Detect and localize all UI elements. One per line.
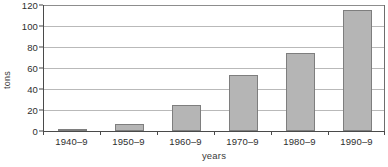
x-tick-mark-0 [43, 131, 44, 135]
y-tick-label-0: 0 [14, 126, 38, 137]
x-tick-label-1990–9: 1990–9 [328, 136, 385, 147]
y-tick-label-100: 100 [14, 21, 38, 32]
bar-1960–9 [172, 105, 202, 131]
x-tick-label-1950–9: 1950–9 [100, 136, 157, 147]
y-axis-title: tons [0, 60, 14, 100]
x-tick-mark-4 [271, 131, 272, 135]
bars-layer [44, 5, 384, 131]
x-tick-label-1960–9: 1960–9 [157, 136, 214, 147]
bar-1980–9 [286, 53, 316, 131]
x-tick-mark-5 [328, 131, 329, 135]
plot-area [43, 5, 385, 131]
bar-1990–9 [343, 10, 373, 131]
x-tick-mark-3 [214, 131, 215, 135]
y-tick-label-120: 120 [14, 0, 38, 11]
bar-1950–9 [115, 124, 145, 131]
y-tick-label-60: 60 [14, 63, 38, 74]
x-tick-label-1980–9: 1980–9 [271, 136, 328, 147]
y-tick-label-20: 20 [14, 105, 38, 116]
x-tick-mark-2 [157, 131, 158, 135]
y-tick-label-80: 80 [14, 42, 38, 53]
bar-chart-figure: tons 020406080100120 1940–91950–91960–91… [0, 0, 388, 167]
x-tick-mark-1 [100, 131, 101, 135]
x-tick-label-1970–9: 1970–9 [214, 136, 271, 147]
x-tick-label-1940–9: 1940–9 [43, 136, 100, 147]
x-axis-tick-labels: 1940–91950–91960–91970–91980–91990–9 [43, 136, 385, 150]
x-axis-title: years [43, 150, 385, 161]
y-tick-label-40: 40 [14, 84, 38, 95]
y-axis-tick-labels: 020406080100120 [14, 5, 38, 131]
x-tick-mark-6 [384, 131, 385, 135]
bar-1970–9 [229, 75, 259, 131]
y-axis-title-label: tons [2, 71, 12, 89]
